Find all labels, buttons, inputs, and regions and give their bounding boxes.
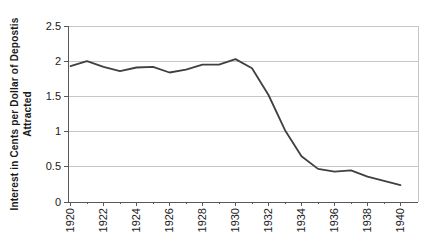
y-axis-tick-label: 2.5: [46, 20, 61, 32]
x-axis-tick-label: 1922: [97, 208, 109, 232]
x-axis-tick-label: 1930: [229, 208, 241, 232]
data-series-line: [71, 59, 401, 185]
x-axis-tick-label: 1928: [196, 208, 208, 232]
x-axis-tick-label: 1920: [64, 208, 76, 232]
x-axis-tick-label: 1924: [130, 208, 142, 232]
y-axis-tick-label: 0: [55, 196, 61, 208]
x-axis-tick-label: 1940: [394, 208, 406, 232]
y-axis-title-line2: Attracted: [21, 9, 34, 219]
y-axis-title: Interest in Cents per Dollar of Depostis…: [8, 9, 34, 219]
y-axis-tick-label: 1: [55, 125, 61, 137]
x-axis-tick-label: 1934: [295, 208, 307, 232]
x-axis-tick-label: 1932: [262, 208, 274, 232]
plot-area: 00.511.522.51920192219241926192819301932…: [0, 0, 425, 250]
x-axis-tick-label: 1936: [328, 208, 340, 232]
x-axis-tick-label: 1938: [361, 208, 373, 232]
y-axis-tick-label: 0.5: [46, 160, 61, 172]
y-axis-tick-label: 1.5: [46, 90, 61, 102]
x-axis-tick-label: 1926: [163, 208, 175, 232]
line-chart: Interest in Cents per Dollar of Depostis…: [0, 0, 425, 250]
y-axis-title-line1: Interest in Cents per Dollar of Depostis: [8, 9, 21, 219]
y-axis-tick-label: 2: [55, 55, 61, 67]
